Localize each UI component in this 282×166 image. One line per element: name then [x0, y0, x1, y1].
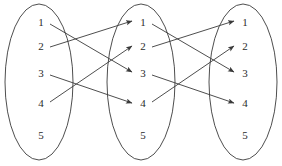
right-set-element-4: 4	[242, 98, 248, 109]
arrow-left3-to-middle4	[50, 75, 132, 103]
left-set-element-3: 3	[38, 68, 44, 79]
arrow-middle3-to-right4	[152, 75, 234, 103]
left-set-element-1: 1	[38, 17, 44, 28]
mapping-diagram: 123451234512345	[0, 0, 282, 166]
arrow-left4-to-middle2	[50, 46, 132, 102]
left-set-element-5: 5	[38, 130, 44, 141]
right-set-element-2: 2	[242, 41, 248, 52]
arrow-left1-to-middle3	[50, 24, 132, 72]
middle-set-element-2: 2	[140, 41, 146, 52]
right-set-element-5: 5	[242, 130, 248, 141]
middle-set-element-4: 4	[140, 98, 146, 109]
middle-set-element-1: 1	[140, 17, 146, 28]
left-set-element-2: 2	[38, 41, 44, 52]
mapping-arrows	[50, 21, 234, 103]
arrow-middle1-to-right3	[152, 24, 234, 72]
middle-set-element-5: 5	[140, 130, 146, 141]
right-set-element-3: 3	[242, 68, 248, 79]
arrow-middle4-to-right2	[152, 46, 234, 102]
middle-set-element-3: 3	[140, 68, 146, 79]
left-set-element-4: 4	[38, 98, 44, 109]
right-set-element-1: 1	[242, 17, 248, 28]
